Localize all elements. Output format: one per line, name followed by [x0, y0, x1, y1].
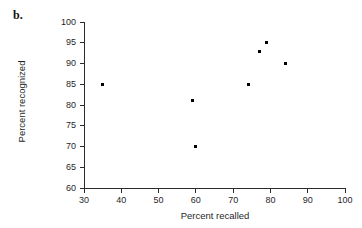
data-point [265, 41, 268, 44]
plot-area [84, 22, 345, 188]
x-axis-tick [158, 189, 159, 193]
y-axis-tick-label: 80 [36, 101, 76, 110]
y-axis-tick-label: 70 [36, 142, 76, 151]
x-axis-tick [307, 189, 308, 193]
x-axis-tick [270, 189, 271, 193]
x-axis-tick-label: 50 [139, 196, 179, 205]
y-axis-tick-label: 75 [36, 121, 76, 130]
x-axis-tick-label: 60 [176, 196, 216, 205]
panel-label: b. [13, 9, 23, 21]
y-axis-tick-label: 65 [36, 163, 76, 172]
y-axis-tick-label: 85 [36, 80, 76, 89]
data-point [101, 83, 104, 86]
x-axis-tick-label: 40 [101, 196, 141, 205]
x-axis-tick-label: 100 [325, 196, 362, 205]
x-axis-tick-label: 70 [213, 196, 253, 205]
x-axis-tick [195, 189, 196, 193]
data-point [191, 99, 194, 102]
x-axis-title: Percent recalled [84, 210, 346, 221]
data-point [194, 145, 197, 148]
x-axis-tick [233, 189, 234, 193]
scatter-plot-figure: b. 6065707580859095100 30405060708090100… [0, 0, 362, 228]
y-axis-tick-label: 90 [36, 59, 76, 68]
y-axis-tick-label: 95 [36, 38, 76, 47]
x-axis-tick [84, 189, 85, 193]
x-axis-tick-label: 80 [250, 196, 290, 205]
y-axis-title: Percent recognized [16, 37, 27, 167]
x-axis-tick [121, 189, 122, 193]
y-axis-tick-label: 60 [36, 184, 76, 193]
x-axis-tick-label: 90 [288, 196, 328, 205]
data-point [247, 83, 250, 86]
data-point [284, 62, 287, 65]
data-point [258, 50, 261, 53]
y-axis-tick-label: 100 [36, 18, 76, 27]
x-axis-tick [345, 189, 346, 193]
x-axis-tick-label: 30 [64, 196, 104, 205]
